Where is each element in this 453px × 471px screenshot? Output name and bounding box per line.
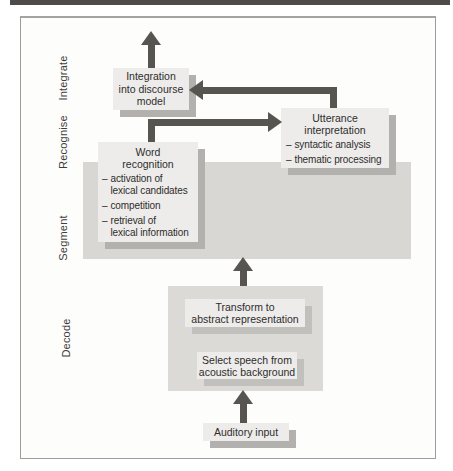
stage-label-segment: Segment: [57, 215, 69, 260]
auditory-input-box: Auditory input: [203, 423, 289, 441]
integration-box: Integration into discourse model: [113, 68, 189, 110]
list-item: – activation of lexical candidates: [102, 173, 196, 197]
stage-label-decode: Decode: [60, 318, 72, 357]
transform-box-label: Transform to abstract representation: [191, 301, 298, 325]
arrow-auditory-to-decode-shaft: [240, 404, 247, 423]
stage-label-integrate: Integrate: [57, 55, 69, 100]
arrow-auditory-to-decode-head: [233, 390, 253, 404]
word-recognition-title: Word recognition: [98, 142, 198, 170]
arrow-utterance-to-integration-horizontal: [202, 87, 337, 94]
word-recognition-box: Word recognition – activation of lexical…: [98, 142, 198, 242]
integration-box-label: Integration into discourse model: [119, 70, 184, 108]
list-item: – thematic processing: [286, 154, 387, 166]
list-item: – syntactic analysis: [286, 139, 387, 151]
utterance-interpretation-box: Utterance interpretation – syntactic ana…: [281, 108, 389, 168]
word-recognition-bullets: – activation of lexical candidates – com…: [98, 173, 198, 239]
utterance-interpretation-title: Utterance interpretation: [281, 108, 389, 136]
list-item: – retrieval of lexical information: [102, 215, 196, 239]
stage-label-recognise: Recognise: [57, 115, 69, 169]
arrow-utterance-to-integration-head: [189, 80, 203, 100]
bullet-dash: –: [286, 139, 291, 151]
arrow-decode-to-segment-head: [233, 257, 253, 271]
bullet-dash: –: [286, 154, 291, 166]
bullet-dash: –: [102, 200, 107, 212]
arrow-word-to-utterance-horizontal: [148, 119, 270, 126]
bullet-dash: –: [102, 215, 107, 239]
arrow-integrate-out-shaft: [148, 45, 155, 68]
select-speech-box-label: Select speech from acoustic background: [199, 354, 295, 378]
select-speech-box: Select speech from acoustic background: [197, 352, 297, 379]
auditory-input-label: Auditory input: [214, 426, 278, 439]
page-header-bar: [10, 0, 450, 5]
arrow-decode-to-segment-shaft: [240, 271, 247, 286]
arrow-word-to-utterance-head: [268, 112, 282, 132]
bullet-dash: –: [102, 173, 107, 197]
arrow-integrate-out-head: [141, 31, 161, 45]
utterance-bullets: – syntactic analysis – thematic processi…: [281, 139, 389, 166]
list-item: – competition: [102, 200, 196, 212]
transform-box: Transform to abstract representation: [185, 299, 305, 327]
